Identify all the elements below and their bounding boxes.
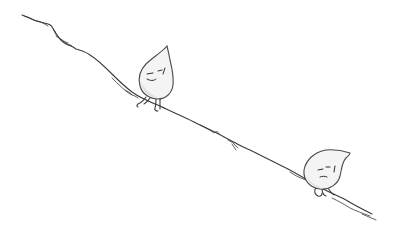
upper-droplet-character — [137, 46, 173, 111]
lower-droplet-character — [304, 150, 350, 197]
slope-scene — [0, 0, 405, 235]
upper-droplet-body — [139, 46, 173, 99]
illustration-canvas — [0, 0, 405, 235]
